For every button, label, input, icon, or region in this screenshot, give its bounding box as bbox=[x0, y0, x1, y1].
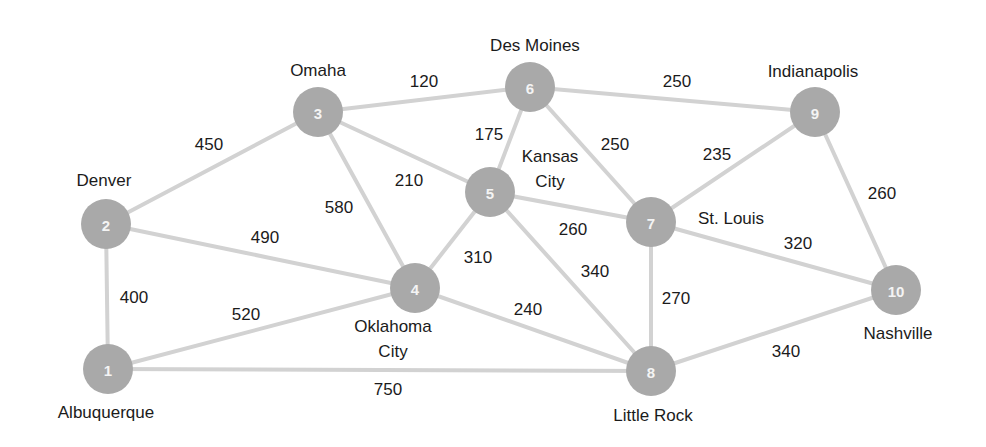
edge-weight-label: 120 bbox=[410, 72, 438, 91]
edge-weight-label: 250 bbox=[663, 72, 691, 91]
city-graph-diagram: 4005207504504905802101203102401752603402… bbox=[0, 0, 986, 447]
node-10: 10 bbox=[871, 265, 921, 315]
city-label: Little Rock bbox=[613, 406, 693, 425]
edge-weight-label: 320 bbox=[784, 234, 812, 253]
edge-1-8 bbox=[108, 369, 651, 371]
city-label: Indianapolis bbox=[768, 62, 859, 81]
edge-weight-label: 260 bbox=[559, 220, 587, 239]
city-label: City bbox=[535, 172, 565, 191]
edge-weight-label: 580 bbox=[325, 198, 353, 217]
edge-7-9 bbox=[651, 112, 815, 222]
node-number: 10 bbox=[888, 283, 905, 300]
edge-2-3 bbox=[106, 112, 318, 224]
city-label: Nashville bbox=[864, 324, 933, 343]
node-number: 4 bbox=[411, 281, 420, 298]
node-2: 2 bbox=[81, 199, 131, 249]
edge-weight-label: 450 bbox=[195, 135, 223, 154]
edge-weight-label: 340 bbox=[772, 342, 800, 361]
node-7: 7 bbox=[626, 197, 676, 247]
city-label: Des Moines bbox=[490, 36, 580, 55]
node-3: 3 bbox=[293, 87, 343, 137]
edge-weight-label: 235 bbox=[703, 145, 731, 164]
edge-7-10 bbox=[651, 222, 896, 290]
node-6: 6 bbox=[505, 62, 555, 112]
edge-weight-label: 750 bbox=[374, 380, 402, 399]
edge-weight-label: 520 bbox=[232, 305, 260, 324]
node-number: 1 bbox=[104, 362, 112, 379]
edge-weight-label: 240 bbox=[514, 300, 542, 319]
edge-weight-label: 400 bbox=[120, 288, 148, 307]
node-1: 1 bbox=[83, 344, 133, 394]
edge-weights-layer: 4005207504504905802101203102401752603402… bbox=[120, 72, 896, 399]
city-label: Albuquerque bbox=[58, 403, 154, 422]
edge-weight-label: 175 bbox=[475, 125, 503, 144]
city-label: City bbox=[378, 342, 408, 361]
city-label: Oklahoma bbox=[354, 317, 432, 336]
city-label: Denver bbox=[77, 171, 132, 190]
edge-weight-label: 340 bbox=[581, 262, 609, 281]
edge-weight-label: 260 bbox=[868, 184, 896, 203]
edge-weight-label: 490 bbox=[251, 228, 279, 247]
city-label: Kansas bbox=[522, 147, 579, 166]
node-number: 2 bbox=[102, 217, 110, 234]
node-number: 8 bbox=[647, 364, 655, 381]
node-number: 7 bbox=[647, 215, 655, 232]
node-number: 6 bbox=[526, 80, 534, 97]
node-number: 3 bbox=[314, 105, 322, 122]
city-label: St. Louis bbox=[698, 209, 764, 228]
edge-weight-label: 310 bbox=[464, 248, 492, 267]
node-number: 5 bbox=[486, 185, 494, 202]
city-label: Omaha bbox=[290, 61, 346, 80]
node-4: 4 bbox=[390, 263, 440, 313]
node-9: 9 bbox=[790, 87, 840, 137]
node-number: 9 bbox=[811, 105, 819, 122]
edge-weight-label: 210 bbox=[395, 171, 423, 190]
node-8: 8 bbox=[626, 346, 676, 396]
edge-weight-label: 270 bbox=[662, 289, 690, 308]
edge-weight-label: 250 bbox=[601, 135, 629, 154]
node-5: 5 bbox=[465, 167, 515, 217]
